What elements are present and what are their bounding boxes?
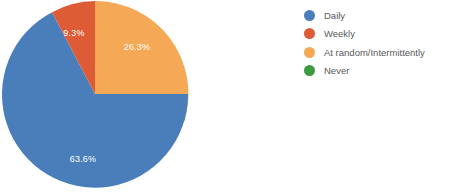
legend-swatch-icon-at-random	[304, 47, 315, 58]
legend-swatch-icon-never	[304, 65, 315, 76]
legend-item-daily[interactable]: Daily	[304, 6, 466, 25]
legend-label-never: Never	[324, 65, 349, 76]
legend-item-never[interactable]: Never	[304, 62, 466, 81]
legend-swatch-icon-weekly	[304, 28, 315, 39]
pie-plot-area: 26.3% 9.3% 63.6%	[0, 0, 250, 196]
legend-label-at-random: At random/Intermittently	[324, 47, 425, 58]
pie-label-weekly: 9.3%	[63, 28, 84, 38]
legend-label-weekly: Weekly	[324, 28, 355, 39]
pie-label-at-random: 26.3%	[124, 42, 151, 52]
pie-svg: 26.3% 9.3% 63.6%	[0, 0, 250, 196]
legend-item-at-random[interactable]: At random/Intermittently	[304, 43, 466, 62]
legend-swatch-icon-daily	[304, 10, 315, 21]
pie-label-daily: 63.6%	[70, 154, 97, 164]
chart-legend: Daily Weekly At random/Intermittently Ne…	[304, 6, 466, 80]
legend-label-daily: Daily	[324, 10, 345, 21]
legend-item-weekly[interactable]: Weekly	[304, 25, 466, 44]
pie-chart-container: 26.3% 9.3% 63.6% Daily Weekly At random/…	[0, 0, 466, 196]
